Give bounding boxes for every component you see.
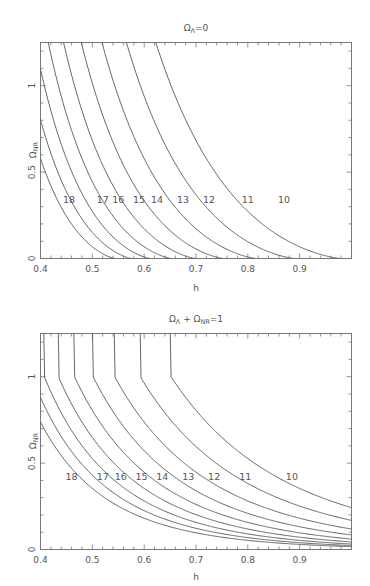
x-tick-label: 0.6 [137,264,152,274]
curve-label-10: 10 [286,471,298,482]
age-curve-13 [41,34,224,259]
curve-label-13: 13 [177,194,189,205]
age-curves-bottom [41,325,352,547]
panel-top-title: ΩΛ=0 [184,23,209,35]
x-tick-label: 0.8 [241,555,256,565]
y-tick-label: 1 [27,374,37,380]
y-tick-label: 0 [27,255,37,261]
age-curve-15 [41,325,352,542]
age-curve-14 [41,325,352,539]
curve-label-18: 18 [66,471,78,482]
panel-flat-universe: ΩΛ + ΩNR=1 101112131415161718 0.40.50.60… [27,314,352,582]
axis-ticks-bottom [41,334,352,550]
curve-labels-bottom: 101112131415161718 [66,471,298,482]
curve-label-11: 11 [239,471,251,482]
x-tick-label: 0.9 [293,555,308,565]
curve-label-15: 15 [133,194,145,205]
age-curve-16 [41,325,352,544]
x-tick-label: 0.5 [85,264,99,274]
curve-label-16: 16 [115,471,127,482]
y-tick-label: 1 [27,83,37,89]
curve-label-18: 18 [63,194,75,205]
age-curve-11 [41,34,294,259]
x-tick-label: 0.9 [293,264,308,274]
age-curve-14 [41,34,196,259]
age-curve-12 [41,325,352,529]
curve-label-15: 15 [136,471,148,482]
age-curves-top [41,34,340,259]
tick-labels-bottom: 0.40.50.60.70.80.900.51 [27,374,308,565]
curve-label-11: 11 [242,194,254,205]
age-curve-10 [41,325,352,508]
curve-label-14: 14 [156,471,168,482]
x-tick-label: 0.5 [85,555,99,565]
age-curve-12 [41,34,256,259]
y-tick-label: 0 [27,546,37,552]
x-tick-label: 0.6 [137,555,152,565]
panel-omega-lambda-zero: ΩΛ=0 101112131415161718 0.40.50.60.70.80… [27,23,352,293]
y-axis-label-top: ΩNR [28,141,40,158]
age-curve-17 [41,120,132,259]
curve-label-12: 12 [203,194,215,205]
x-tick-label: 0.4 [33,264,48,274]
x-tick-label: 0.7 [189,555,203,565]
curve-label-13: 13 [182,471,194,482]
x-axis-label-bottom: h [193,572,199,582]
age-contour-figure: ΩΛ=0 101112131415161718 0.40.50.60.70.80… [0,0,370,586]
curve-label-17: 17 [97,194,109,205]
tick-labels-top: 0.40.50.60.70.80.900.51 [27,83,308,274]
x-tick-label: 0.8 [241,264,256,274]
curve-label-14: 14 [151,194,163,205]
y-axis-label-bottom: ΩNR [28,432,40,449]
curve-label-10: 10 [278,194,290,205]
x-axis-label-top: h [193,283,199,293]
y-tick-label: 0.5 [27,165,37,179]
curve-label-17: 17 [97,471,109,482]
y-tick-label: 0.5 [27,456,37,470]
age-curve-17 [41,397,352,545]
panel-bottom-title: ΩΛ + ΩNR=1 [169,314,223,326]
x-tick-label: 0.7 [189,264,203,274]
age-curve-16 [41,69,150,258]
plot-frame-bottom [41,334,352,550]
curve-labels-top: 101112131415161718 [63,194,290,205]
curve-label-12: 12 [208,471,220,482]
curve-label-16: 16 [112,194,124,205]
age-curve-10 [41,34,340,259]
x-tick-label: 0.4 [33,555,48,565]
age-curve-15 [41,34,172,259]
